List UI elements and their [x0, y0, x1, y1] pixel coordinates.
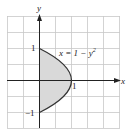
- y-tick-neg1: −1: [25, 108, 35, 118]
- equation-text: x = 1 − y: [58, 48, 93, 58]
- y-tick-1: 1: [31, 43, 36, 53]
- y-axis-arrow-icon: [37, 14, 42, 21]
- equation-exponent: 2: [93, 47, 96, 53]
- y-axis-label: y: [36, 3, 41, 13]
- equation-label: x = 1 − y2: [58, 47, 96, 58]
- graph: y x 1 −1 1 x = 1 − y2: [0, 0, 129, 131]
- x-tick-1: 1: [72, 81, 77, 91]
- x-axis-arrow-icon: [114, 78, 121, 83]
- x-axis-label: x: [120, 76, 125, 86]
